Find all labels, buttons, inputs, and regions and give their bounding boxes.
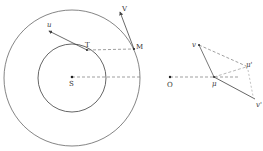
label-m: M	[136, 43, 143, 51]
point-o	[169, 76, 171, 78]
muprime-vprime-line	[248, 70, 253, 96]
label-v-prime: v'	[256, 101, 262, 109]
tm-line	[88, 49, 133, 50]
label-s: S	[69, 80, 74, 88]
label-t: T	[85, 41, 90, 49]
point-m	[133, 48, 135, 50]
point-v	[198, 44, 200, 46]
right-figure: O μ v μ' v'	[167, 41, 262, 109]
velocity-u-arrow	[49, 31, 87, 50]
point-mu	[213, 76, 215, 78]
left-figure: S T M u V	[4, 5, 143, 146]
label-v: v	[192, 41, 196, 49]
mu-v-line	[199, 45, 214, 77]
orbit-diagram: S T M u V O μ v μ' v'	[0, 0, 263, 151]
label-u: u	[47, 21, 52, 29]
point-t	[86, 49, 88, 51]
label-o: O	[167, 81, 173, 89]
label-v-big: V	[121, 5, 128, 13]
point-s	[71, 76, 74, 79]
mu-muprime-line	[214, 67, 246, 77]
v-muprime-line	[199, 45, 246, 66]
mu-vprime-line	[214, 77, 255, 99]
label-mu-prime: μ'	[246, 61, 253, 69]
label-mu: μ	[212, 80, 217, 88]
velocity-v-arrow	[120, 12, 134, 49]
